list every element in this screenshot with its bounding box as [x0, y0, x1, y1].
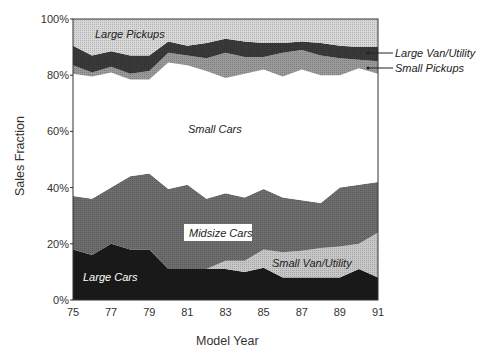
x-axis-label: Model Year — [196, 334, 259, 348]
x-tick-label: 85 — [258, 306, 270, 318]
x-tick-label: 89 — [334, 306, 346, 318]
label-small-van-utility: Small Van/Utility — [272, 257, 353, 269]
x-tick-label: 87 — [296, 306, 308, 318]
x-tick-label: 81 — [181, 306, 193, 318]
label-large-cars: Large Cars — [83, 271, 138, 283]
y-tick-label: 0% — [53, 294, 69, 306]
y-tick-label: 40% — [47, 182, 69, 194]
y-tick-label: 100% — [41, 13, 69, 25]
x-axis: 757779818385878991 — [67, 306, 384, 318]
y-tick-label: 60% — [47, 125, 69, 137]
leader-dot-small-pickups — [367, 67, 370, 70]
label-large-van-utility: Large Van/Utility — [395, 47, 477, 59]
label-large-pickups: Large Pickups — [95, 28, 165, 40]
y-axis-label: Sales Fraction — [13, 116, 27, 196]
x-tick-label: 91 — [372, 306, 384, 318]
x-tick-label: 77 — [105, 306, 117, 318]
leader-dot-large-van — [367, 52, 370, 55]
x-tick-label: 83 — [219, 306, 231, 318]
x-tick-label: 75 — [67, 306, 79, 318]
label-midsize-cars: Midsize Cars — [189, 227, 253, 239]
stacked-area-chart: 0%20%40%60%80%100% 757779818385878991 La… — [0, 0, 484, 355]
label-small-cars: Small Cars — [188, 123, 242, 135]
y-tick-label: 80% — [47, 69, 69, 81]
x-tick-label: 79 — [143, 306, 155, 318]
y-axis: 0%20%40%60%80%100% — [41, 13, 73, 306]
y-tick-label: 20% — [47, 238, 69, 250]
label-small-pickups: Small Pickups — [395, 62, 465, 74]
